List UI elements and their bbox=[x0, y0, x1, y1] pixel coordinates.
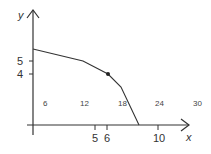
x-tick-label-10: 10 bbox=[153, 132, 165, 144]
highlight-point bbox=[106, 72, 110, 76]
y-axis-label: y bbox=[17, 9, 25, 21]
diagram: y x 5 4 5 6 10 6 12 18 24 30 bbox=[0, 0, 211, 154]
row-label-24: 24 bbox=[155, 99, 164, 108]
row-label-18: 18 bbox=[118, 99, 127, 108]
boundary-line bbox=[33, 49, 139, 125]
x-tick-label-5: 5 bbox=[92, 132, 98, 144]
x-axis-label: x bbox=[185, 131, 192, 143]
y-tick-label-4: 4 bbox=[17, 68, 23, 80]
row-label-30: 30 bbox=[193, 99, 202, 108]
row-label-6: 6 bbox=[43, 99, 48, 108]
row-label-12: 12 bbox=[80, 99, 89, 108]
y-tick-label-5: 5 bbox=[17, 55, 23, 67]
x-tick-label-6: 6 bbox=[104, 132, 110, 144]
